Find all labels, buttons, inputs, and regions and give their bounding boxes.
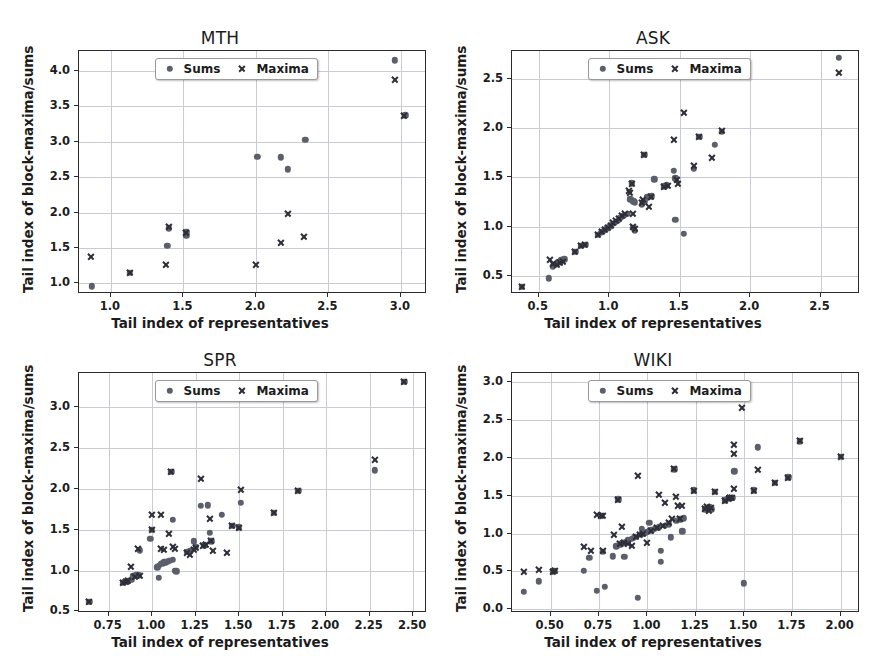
sums-point-marker — [646, 520, 652, 526]
maxima-point-marker — [228, 521, 236, 529]
maxima-point-marker — [730, 441, 738, 449]
y-tick-mark — [507, 457, 511, 458]
sums-point-marker — [797, 438, 803, 444]
sums-point-marker — [691, 165, 697, 171]
sums-point-marker — [679, 528, 685, 534]
maxima-point-marker — [707, 504, 715, 512]
maxima-point-marker — [639, 529, 647, 537]
maxima-point-marker — [668, 515, 676, 523]
y-tick-label: 1.0 — [469, 526, 503, 540]
y-tick-mark — [74, 570, 78, 571]
gridline-horizontal — [512, 420, 858, 421]
sums-point-marker — [561, 256, 567, 262]
sums-point-marker — [128, 576, 134, 582]
legend-entry-sums[interactable]: Sums — [164, 384, 221, 398]
sums-point-marker — [652, 526, 658, 532]
maxima-point-marker — [223, 548, 231, 556]
sums-point-marker — [671, 167, 677, 173]
x-tick-label: 1.0 — [598, 299, 618, 313]
legend-entry-maxima[interactable]: Maxima — [236, 62, 309, 76]
sums-point-marker — [519, 284, 525, 290]
plot-axes-wiki — [511, 372, 859, 612]
y-tick-mark — [507, 78, 511, 79]
maxima-point-marker — [674, 501, 682, 509]
dot-marker-icon — [597, 63, 609, 75]
legend-label: Maxima — [689, 62, 742, 76]
sums-point-marker — [634, 595, 640, 601]
maxima-point-marker — [784, 473, 792, 481]
maxima-point-marker — [728, 493, 736, 501]
legend-label: Maxima — [256, 62, 309, 76]
sums-point-marker — [712, 142, 718, 148]
x-tick-label: 1.75 — [267, 618, 295, 632]
maxima-point-marker — [615, 215, 623, 223]
legend-entry-sums[interactable]: Sums — [597, 384, 654, 398]
maxima-point-marker — [205, 515, 213, 523]
gridline-vertical — [841, 373, 842, 611]
legend-entry-maxima[interactable]: Maxima — [236, 384, 309, 398]
panel-title-spr: SPR — [0, 350, 440, 370]
gridline-vertical — [401, 51, 402, 292]
sums-point-marker — [158, 561, 164, 567]
sums-point-marker — [696, 134, 702, 140]
maxima-point-marker — [136, 571, 144, 579]
panel-ask: ASK0.51.01.52.02.50.51.01.52.02.5Tail in… — [0, 0, 873, 669]
sums-point-marker — [89, 283, 95, 289]
legend-label: Maxima — [689, 384, 742, 398]
x-tick-label: 1.50 — [224, 618, 252, 632]
sums-point-marker — [600, 548, 606, 554]
panel-wiki: WIKI0.500.751.001.251.501.752.000.00.51.… — [0, 0, 873, 669]
sums-point-marker — [636, 532, 642, 538]
y-tick-label: 3.5 — [36, 98, 70, 112]
gridline-vertical — [326, 373, 327, 611]
legend-entry-sums[interactable]: Sums — [164, 62, 221, 76]
x-tick-label: 3.0 — [390, 299, 410, 313]
x-axis-label: Tail index of representatives — [433, 315, 873, 331]
y-tick-label: 3.0 — [469, 374, 503, 388]
maxima-point-marker — [593, 510, 601, 518]
sums-point-marker — [183, 228, 189, 234]
x-tick-mark — [646, 612, 647, 616]
y-tick-label: 1.5 — [469, 488, 503, 502]
legend-entry-sums[interactable]: Sums — [597, 62, 654, 76]
y-tick-mark — [74, 282, 78, 283]
sums-point-marker — [191, 538, 197, 544]
maxima-point-marker — [835, 69, 843, 77]
gridline-vertical — [413, 373, 414, 611]
maxima-point-marker — [198, 542, 206, 550]
y-tick-label: 0.5 — [36, 603, 70, 617]
x-tick-label: 1.25 — [680, 618, 708, 632]
y-tick-mark — [507, 381, 511, 382]
y-tick-label: 3.0 — [36, 399, 70, 413]
gridline-vertical — [647, 373, 648, 611]
maxima-point-marker — [618, 212, 626, 220]
maxima-point-marker — [86, 252, 94, 260]
y-tick-label: 2.0 — [36, 481, 70, 495]
sums-point-marker — [549, 568, 555, 574]
gridline-vertical — [744, 373, 745, 611]
sums-point-marker — [550, 263, 556, 269]
sums-point-marker — [644, 529, 650, 535]
sums-point-marker — [609, 222, 615, 228]
x-axis-label: Tail index of representatives — [0, 315, 440, 331]
x-tick-mark — [538, 293, 539, 297]
legend-entry-maxima[interactable]: Maxima — [669, 62, 742, 76]
sums-point-marker — [133, 571, 139, 577]
maxima-point-marker — [400, 378, 408, 386]
legend-entry-maxima[interactable]: Maxima — [669, 384, 742, 398]
y-axis-label: Tail index of block-maxima/sums — [453, 46, 469, 293]
maxima-point-marker — [606, 222, 614, 230]
x-tick-mark — [679, 293, 680, 297]
maxima-point-marker — [134, 544, 142, 552]
maxima-point-marker — [724, 494, 732, 502]
y-tick-label: 1.5 — [36, 240, 70, 254]
maxima-point-marker — [599, 547, 607, 555]
maxima-point-marker — [620, 538, 628, 546]
maxima-point-marker — [519, 568, 527, 576]
gridline-vertical — [599, 373, 600, 611]
sums-point-marker — [727, 495, 733, 501]
legend-label: Sums — [617, 62, 654, 76]
maxima-point-marker — [197, 475, 205, 483]
sums-point-marker — [702, 506, 708, 512]
sums-point-marker — [640, 530, 646, 536]
